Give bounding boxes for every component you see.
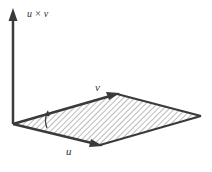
label-u: u xyxy=(66,146,72,157)
parallelogram-area xyxy=(13,94,201,145)
vector-cross-arrowhead-icon xyxy=(9,8,18,21)
cross-product-diagram xyxy=(0,0,212,172)
rotation-arrowhead-icon xyxy=(45,110,50,116)
label-cross-product: u × v xyxy=(27,9,48,19)
label-v: v xyxy=(95,82,100,93)
